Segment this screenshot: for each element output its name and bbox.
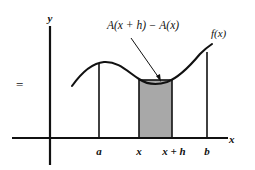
area-function-figure: y x f(x) A(x + h) − A(x) a x x + h b = [0,0,255,170]
tick-label-x: x [136,146,142,157]
function-curve-label: f(x) [211,28,226,39]
tick-label-x-plus-h: x + h [162,146,185,157]
area-increment-annotation: A(x + h) − A(x) [107,20,179,32]
y-axis-label: y [48,13,53,24]
annotation-leader-line [131,38,159,78]
x-axis-label: x [229,134,235,145]
tick-label-a: a [96,146,102,157]
function-curve [72,44,212,86]
area-increment-rectangle [139,80,172,138]
tick-label-b: b [204,146,210,157]
equals-sign-mark: = [16,77,23,93]
